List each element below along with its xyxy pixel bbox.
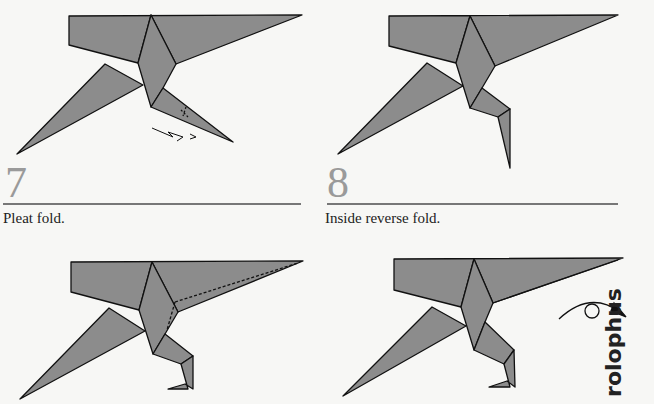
step-7-diagram (17, 15, 302, 154)
step-7-number: 7 (5, 161, 27, 205)
side-watermark-text: rolophus (601, 288, 626, 397)
step-9-diagram (20, 261, 303, 399)
step-8-caption: Inside reverse fold. (325, 210, 440, 227)
step-7-caption: Pleat fold. (3, 210, 65, 227)
step-10-diagram (343, 258, 623, 396)
step-8-diagram (338, 15, 618, 168)
origami-instruction-page: 7 Pleat fold. 8 Inside reverse fold. rol… (0, 0, 654, 404)
step-8-number: 8 (327, 161, 349, 205)
step-7-divider (3, 203, 301, 205)
step-8-divider (327, 203, 618, 205)
